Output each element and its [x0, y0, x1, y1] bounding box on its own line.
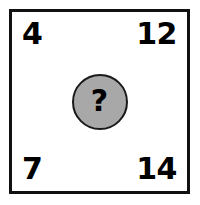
- corner-value-top-left: 4: [22, 19, 42, 49]
- puzzle-root: 4 12 7 14 ?: [0, 0, 200, 205]
- center-unknown-disc: ?: [72, 74, 128, 130]
- question-mark-icon: ?: [91, 86, 108, 116]
- corner-value-top-right: 12: [136, 19, 177, 49]
- corner-value-bottom-right: 14: [136, 154, 177, 184]
- puzzle-frame: 4 12 7 14 ?: [9, 9, 190, 194]
- corner-value-bottom-left: 7: [22, 154, 42, 184]
